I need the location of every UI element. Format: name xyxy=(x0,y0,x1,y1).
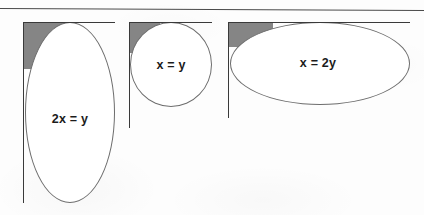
shape-label-circle: x = y xyxy=(156,58,185,72)
shape-label-tall-ellipse: 2x = y xyxy=(52,112,88,126)
top-horizontal-rule xyxy=(0,8,424,11)
axis-horizontal-tall-ellipse xyxy=(23,22,115,23)
axis-horizontal-circle xyxy=(129,22,212,23)
axis-vertical-tall-ellipse xyxy=(23,22,24,203)
axis-horizontal-wide-ellipse xyxy=(228,22,410,23)
axis-vertical-circle xyxy=(129,22,130,128)
axis-vertical-wide-ellipse xyxy=(228,22,229,118)
diagram-canvas: 2x = y x = y x = 2y xyxy=(0,0,424,215)
shape-label-wide-ellipse: x = 2y xyxy=(300,56,336,70)
